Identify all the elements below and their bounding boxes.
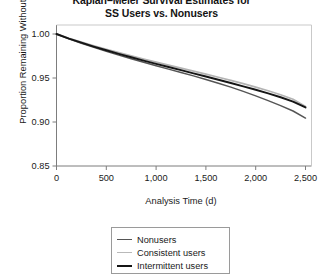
y-tick-label: 0.90: [32, 117, 50, 127]
x-tick-label: 0: [54, 173, 59, 183]
legend-label-nonusers: Nonusers: [137, 235, 176, 245]
y-tick-label: 0.85: [32, 161, 50, 171]
legend-swatch-consistent-users: [117, 252, 132, 253]
legend-label-consistent-users: Consistent users: [137, 248, 205, 258]
legend-item: Intermittent users: [117, 259, 229, 272]
x-tick-label: 500: [99, 173, 114, 183]
x-tick-label: 1,500: [194, 173, 217, 183]
x-tick-label: 2,500: [294, 173, 317, 183]
y-tick-label: 0.95: [32, 73, 50, 83]
legend-item: Nonusers: [117, 233, 229, 246]
legend-item: Consistent users: [117, 246, 229, 259]
legend-swatch-nonusers: [117, 239, 132, 240]
legend-label-intermittent-users: Intermittent users: [137, 261, 208, 271]
chart-figure: Kaplan–Meier Survival Estimates for SS U…: [0, 0, 323, 280]
y-tick-label: 1.00: [32, 29, 50, 39]
plot-area: 0.850.900.951.0005001,0001,5002,0002,500: [0, 0, 323, 210]
chart-legend: Nonusers Consistent users Intermittent u…: [111, 227, 230, 274]
legend-swatch-intermittent-users: [117, 265, 132, 267]
x-tick-label: 1,000: [145, 173, 168, 183]
x-tick-label: 2,000: [244, 173, 267, 183]
